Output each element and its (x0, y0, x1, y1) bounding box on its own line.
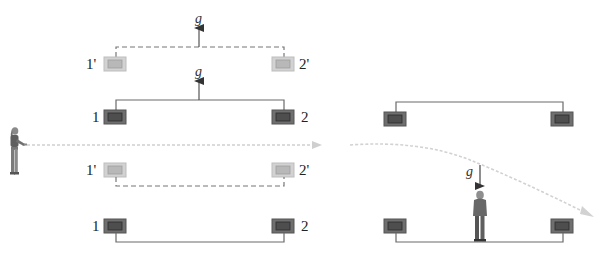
clock-2-prime-lower (272, 163, 294, 177)
man-observer-figure (473, 191, 487, 242)
label-2-lower: 2 (301, 219, 309, 234)
accel-label-upper-moved: g (195, 12, 202, 26)
moved-wire-lower (116, 177, 284, 186)
label-2-prime-upper: 2' (299, 57, 309, 72)
clock-right-lower-right (551, 219, 573, 233)
clock-1-lower (104, 219, 126, 233)
clock-2-upper (272, 110, 294, 124)
clock-1-prime-lower (104, 163, 126, 177)
clock-2-prime-upper (272, 57, 294, 71)
clock-2-lower (272, 219, 294, 233)
label-2-prime-lower: 2' (299, 163, 309, 178)
accel-label-upper: g (195, 65, 202, 79)
gravity-label: g (466, 165, 473, 179)
moved-wire-upper (116, 47, 284, 57)
wire-lower (116, 233, 284, 242)
label-1-lower: 1 (92, 219, 100, 234)
clock-1-prime-upper (104, 57, 126, 71)
label-1-upper: 1 (92, 110, 100, 125)
label-1-prime-upper: 1' (86, 57, 96, 72)
woman-observer-figure (10, 127, 27, 174)
light-beam-curved (350, 144, 590, 215)
label-2-upper: 2 (301, 110, 309, 125)
clock-right-upper-right (551, 112, 573, 126)
equivalence-diagram: g g 1' 2' 1 2 1' 2' 1 2 g (0, 0, 604, 256)
wire-right-upper (396, 102, 563, 112)
left-lower-group (104, 163, 294, 242)
label-1-prime-lower: 1' (86, 163, 96, 178)
clock-right-upper-left (384, 112, 406, 126)
clock-1-upper (104, 110, 126, 124)
clock-right-lower-left (384, 219, 406, 233)
light-beam-straight (22, 141, 322, 149)
wire-upper (116, 100, 284, 110)
